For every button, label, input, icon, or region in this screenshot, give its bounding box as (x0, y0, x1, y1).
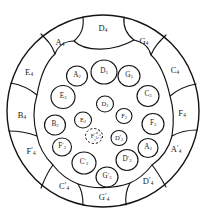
cell-D3 (91, 60, 117, 84)
cell-G3 (118, 66, 140, 87)
figure-canvas: D4A4G4E4C4B4F4F′4A′4C′4D′4G′4A2D3G3C3E3B… (0, 0, 206, 222)
cell-Dp3 (116, 150, 138, 171)
cell-E2 (75, 112, 92, 128)
cell-C3 (137, 86, 159, 107)
cell-Dp2 (111, 131, 127, 146)
centre-speckles (95, 131, 102, 141)
cell-F3 (142, 114, 164, 135)
cell-Gp3 (96, 167, 118, 187)
cell-A2-right (138, 139, 158, 158)
cell-Fp2 (53, 138, 72, 156)
cell-B2 (45, 115, 66, 135)
cell-A2 (67, 66, 88, 86)
ring3-circles (75, 96, 133, 146)
cell-F2 (116, 109, 132, 124)
cell-Fp1 (86, 129, 103, 144)
cell-E3 (51, 86, 75, 109)
ring2-circles (45, 60, 165, 187)
cell-D1 (97, 96, 114, 112)
core-circles (86, 129, 103, 144)
outer-boundary-circle (7, 15, 199, 207)
cell-Cp2 (72, 152, 96, 174)
circle-packing-svg (0, 0, 206, 222)
outer-ring-partitions (9, 17, 197, 205)
